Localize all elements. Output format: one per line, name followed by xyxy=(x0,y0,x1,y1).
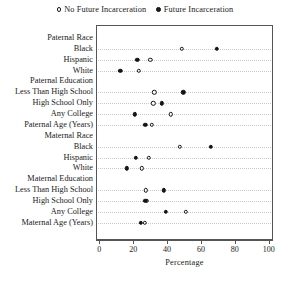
gridline xyxy=(98,223,271,224)
data-point-no-future-incarceration xyxy=(152,90,156,94)
category-axis-labels: Paternal RaceBlackHispanicWhitePaternal … xyxy=(0,25,93,240)
gridline xyxy=(98,103,271,104)
data-point-no-future-incarceration xyxy=(146,155,150,159)
gridline xyxy=(98,190,271,191)
open-circle-marker-icon xyxy=(57,7,62,12)
gridline xyxy=(98,125,271,126)
gridline xyxy=(98,60,271,61)
plot-frame xyxy=(96,25,273,240)
category-label: Black xyxy=(0,141,93,150)
category-label: Less Than High School xyxy=(0,87,93,96)
legend-label-no-future-incarceration: No Future Incarceration xyxy=(64,5,146,14)
category-label: White xyxy=(0,65,93,74)
data-point-future-incarceration xyxy=(125,166,129,170)
data-point-future-incarceration xyxy=(181,90,185,94)
gridline xyxy=(98,201,271,202)
x-axis-tick xyxy=(133,240,134,244)
x-axis-tick xyxy=(269,240,270,244)
data-point-future-incarceration xyxy=(135,58,139,62)
data-point-future-incarceration xyxy=(118,68,122,72)
data-point-no-future-incarceration xyxy=(151,101,155,105)
filled-circle-marker-icon xyxy=(156,7,161,12)
x-axis-tick-label: 0 xyxy=(97,245,101,254)
data-point-future-incarceration xyxy=(138,221,142,225)
legend-entry-future-incarceration: Future Incarceration xyxy=(156,5,233,14)
x-axis-title: Percentage xyxy=(96,258,273,267)
category-label: Hispanic xyxy=(0,54,93,63)
data-point-no-future-incarceration xyxy=(169,112,173,116)
gridline xyxy=(98,147,271,148)
category-label: Any College xyxy=(0,206,93,215)
data-point-future-incarceration xyxy=(143,123,147,127)
plot-area xyxy=(97,26,272,239)
category-label: High School Only xyxy=(0,98,93,107)
category-label: Hispanic xyxy=(0,152,93,161)
x-axis-tick-label: 80 xyxy=(231,245,239,254)
data-point-no-future-incarceration xyxy=(142,221,146,225)
x-axis-tick xyxy=(167,240,168,244)
data-point-no-future-incarceration xyxy=(178,145,182,149)
category-label: White xyxy=(0,163,93,172)
data-point-future-incarceration xyxy=(159,101,163,105)
category-label: High School Only xyxy=(0,196,93,205)
gridline xyxy=(98,114,271,115)
x-axis-tick xyxy=(201,240,202,244)
x-axis-tick-label: 40 xyxy=(163,245,171,254)
category-group-label: Maternal Education xyxy=(0,174,93,183)
category-label: Paternal Age (Years) xyxy=(0,119,93,128)
data-point-no-future-incarceration xyxy=(184,210,188,214)
category-label: Black xyxy=(0,43,93,52)
x-axis-tick-label: 20 xyxy=(129,245,137,254)
category-group-label: Paternal Education xyxy=(0,76,93,85)
category-group-label: Paternal Race xyxy=(0,33,93,42)
category-label: Less Than High School xyxy=(0,185,93,194)
data-point-no-future-incarceration xyxy=(149,123,153,127)
data-point-future-incarceration xyxy=(214,47,218,51)
data-point-no-future-incarceration xyxy=(148,58,152,62)
data-point-no-future-incarceration xyxy=(139,166,143,170)
gridline xyxy=(98,158,271,159)
category-label: Maternal Age (Years) xyxy=(0,217,93,226)
gridline xyxy=(98,71,271,72)
data-point-future-incarceration xyxy=(133,112,137,116)
data-point-no-future-incarceration xyxy=(136,68,140,72)
data-point-future-incarceration xyxy=(164,210,168,214)
x-axis-tick xyxy=(235,240,236,244)
category-label: Any College xyxy=(0,109,93,118)
x-axis-tick-label: 60 xyxy=(197,245,205,254)
legend-label-future-incarceration: Future Incarceration xyxy=(164,5,234,14)
x-axis: 020406080100 xyxy=(96,240,273,241)
legend-entry-no-future-incarceration: No Future Incarceration xyxy=(57,5,147,14)
data-point-future-incarceration xyxy=(161,188,165,192)
data-point-future-incarceration xyxy=(209,145,213,149)
gridline xyxy=(98,49,271,50)
chart-legend: No Future Incarceration Future Incarcera… xyxy=(0,5,290,14)
data-point-no-future-incarceration xyxy=(144,188,148,192)
data-point-future-incarceration xyxy=(134,155,138,159)
x-axis-tick-label: 100 xyxy=(263,245,275,254)
scatter-chart-figure: No Future Incarceration Future Incarcera… xyxy=(0,0,290,283)
data-point-no-future-incarceration xyxy=(180,47,184,51)
category-group-label: Maternal Race xyxy=(0,130,93,139)
x-axis-tick xyxy=(99,240,100,244)
